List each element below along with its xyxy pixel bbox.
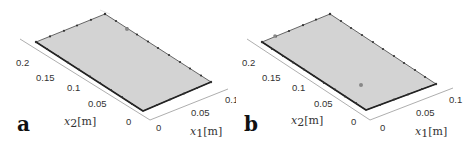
- x1-axis-label: x1[m]: [415, 125, 447, 140]
- x1-axis-label: x1[m]: [190, 125, 222, 140]
- x2-tick: 0.1: [67, 82, 80, 93]
- marker-dot: [125, 27, 129, 31]
- x1-tick: 0.1: [449, 94, 462, 105]
- x1-tick: 0: [380, 122, 385, 133]
- x2-axis-label: x2[m]: [64, 115, 96, 130]
- plate: [36, 14, 211, 111]
- x2-tick: 0.05: [88, 98, 107, 109]
- plate-plot-a: 0.2 0.15 0.1 0.05 0 0 0.05 0.1 x2[m] x1[…: [0, 0, 236, 147]
- x2-tick: 0: [351, 116, 356, 127]
- x2-tick: 0: [126, 116, 131, 127]
- plate-plot-b: 0.2 0.15 0.1 0.05 0 0 0.05 0.1 x2[m] x1[…: [235, 0, 471, 147]
- marker-dot-edge: [273, 34, 277, 38]
- x2-tick: 0.2: [16, 57, 29, 68]
- x1-tick: 0.05: [191, 107, 210, 118]
- panel-a: 0.2 0.15 0.1 0.05 0 0 0.05 0.1 x2[m] x1[…: [0, 0, 236, 147]
- marker-dot: [359, 83, 363, 87]
- plate: [262, 14, 436, 110]
- x2-tick: 0.2: [242, 57, 255, 68]
- panel-label-b: b: [244, 112, 258, 136]
- x1-tick: 0.05: [416, 107, 435, 118]
- panel-label-a: a: [17, 112, 30, 136]
- x2-tick: 0.15: [36, 72, 55, 83]
- x1-tick: 0: [156, 122, 161, 133]
- x2-axis-label: x2[m]: [291, 114, 323, 129]
- x2-tick: 0.05: [314, 98, 333, 109]
- panel-b: 0.2 0.15 0.1 0.05 0 0 0.05 0.1 x2[m] x1[…: [235, 0, 471, 147]
- x2-tick: 0.1: [292, 82, 305, 93]
- x2-tick: 0.15: [262, 72, 281, 83]
